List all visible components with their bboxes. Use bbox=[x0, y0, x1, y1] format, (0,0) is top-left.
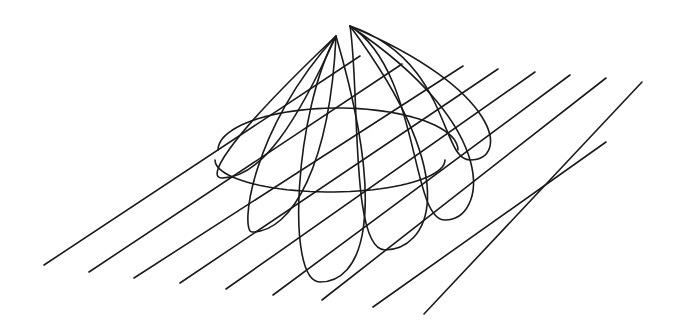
petal-curve bbox=[299, 36, 366, 282]
parallel-lines-group bbox=[44, 56, 642, 314]
parallel-line bbox=[180, 69, 498, 283]
ring-curve bbox=[218, 108, 458, 150]
petal-curves-group bbox=[217, 26, 490, 282]
wireframe-dome-drawing bbox=[0, 0, 679, 331]
parallel-line bbox=[373, 142, 606, 307]
ring-curves-group bbox=[215, 108, 458, 192]
figure-canvas bbox=[0, 0, 679, 331]
parallel-line bbox=[424, 82, 642, 314]
parallel-line bbox=[226, 72, 535, 289]
